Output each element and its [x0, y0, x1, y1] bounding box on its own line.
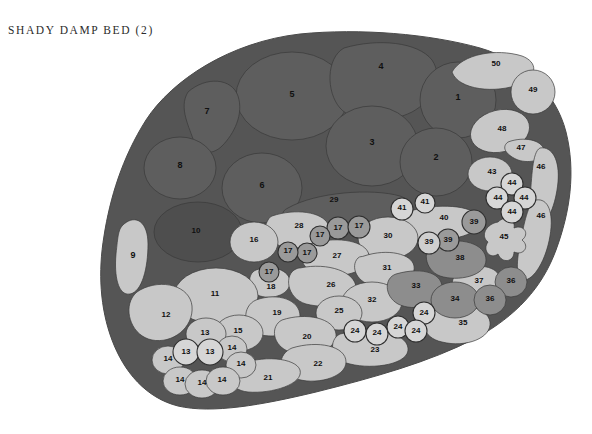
region-label-34: 34	[451, 294, 460, 303]
region-label-1: 1	[455, 92, 460, 102]
region-label-43: 43	[488, 167, 497, 176]
region-label-37: 37	[475, 276, 484, 285]
region-label-8: 8	[177, 160, 182, 170]
region-label-18: 18	[267, 282, 276, 291]
region-label-24: 24	[420, 308, 429, 317]
region-label-31: 31	[383, 263, 392, 272]
region-label-17: 17	[265, 267, 274, 276]
region-label-19: 19	[273, 308, 282, 317]
region-label-14: 14	[237, 359, 246, 368]
region-label-24: 24	[412, 326, 421, 335]
region-label-6: 6	[259, 180, 264, 190]
region-label-14: 14	[228, 343, 237, 352]
region-label-44: 44	[508, 207, 517, 216]
region-label-17: 17	[334, 223, 343, 232]
planting-bed-map: 5049415748474632438644444444294141404639…	[0, 0, 592, 434]
region-label-7: 7	[204, 106, 209, 116]
region-label-5: 5	[289, 89, 294, 99]
region-label-24: 24	[394, 322, 403, 331]
region-label-25: 25	[335, 306, 344, 315]
region-label-49: 49	[529, 85, 538, 94]
region-label-44: 44	[520, 193, 529, 202]
region-label-44: 44	[494, 193, 503, 202]
region-label-14: 14	[164, 354, 173, 363]
region-label-28: 28	[295, 221, 304, 230]
region-label-39: 39	[425, 237, 434, 246]
region-label-10: 10	[192, 226, 201, 235]
region-label-20: 20	[303, 332, 312, 341]
region-label-16: 16	[250, 235, 259, 244]
region-label-33: 33	[412, 281, 421, 290]
region-label-46: 46	[537, 211, 546, 220]
region-label-46: 46	[537, 162, 546, 171]
region-label-13: 13	[182, 347, 191, 356]
region-label-39: 39	[470, 217, 479, 226]
region-label-17: 17	[284, 246, 293, 255]
region-label-38: 38	[456, 253, 465, 262]
region-label-17: 17	[355, 221, 364, 230]
region-label-30: 30	[384, 231, 393, 240]
region-label-14: 14	[176, 375, 185, 384]
region-label-29: 29	[330, 195, 339, 204]
region-label-39: 39	[444, 235, 453, 244]
region-label-40: 40	[440, 213, 449, 222]
region-label-17: 17	[316, 230, 325, 239]
region-label-2: 2	[433, 152, 438, 162]
region-label-14: 14	[198, 378, 207, 387]
region-label-27: 27	[333, 251, 342, 260]
region-label-11: 11	[211, 289, 220, 298]
region-label-22: 22	[314, 359, 323, 368]
region-label-36: 36	[507, 276, 516, 285]
region-label-26: 26	[327, 280, 336, 289]
region-label-45: 45	[500, 232, 509, 241]
region-label-21: 21	[264, 373, 273, 382]
region-label-32: 32	[368, 295, 377, 304]
region-label-24: 24	[373, 328, 382, 337]
region-label-15: 15	[234, 326, 243, 335]
region-label-35: 35	[459, 318, 468, 327]
region-label-23: 23	[371, 345, 380, 354]
region-label-3: 3	[369, 137, 374, 147]
region-label-12: 12	[162, 310, 171, 319]
region-label-13: 13	[201, 328, 210, 337]
region-label-41: 41	[398, 203, 407, 212]
plan-page: SHADY DAMP BED (2)	[0, 0, 592, 434]
region-label-14: 14	[218, 375, 227, 384]
region-label-24: 24	[351, 326, 360, 335]
region-label-36: 36	[486, 294, 495, 303]
region-label-41: 41	[421, 197, 430, 206]
region-label-13: 13	[206, 347, 215, 356]
region-label-17: 17	[303, 248, 312, 257]
region-label-9: 9	[130, 250, 135, 260]
region-label-48: 48	[498, 124, 507, 133]
region-label-4: 4	[378, 61, 383, 71]
region-label-47: 47	[517, 143, 526, 152]
region-label-44: 44	[508, 178, 517, 187]
region-label-50: 50	[492, 59, 501, 68]
